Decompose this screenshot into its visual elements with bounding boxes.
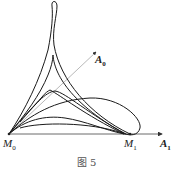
label-m0: M0	[3, 138, 16, 152]
figure-caption: 图 5	[0, 154, 173, 169]
label-m1: M1	[124, 138, 137, 152]
curve-low-arc	[9, 117, 124, 134]
label-a1: A1	[160, 138, 171, 152]
diagram-canvas	[0, 0, 173, 170]
label-a0: A0	[95, 54, 106, 68]
curve-family	[9, 2, 140, 135]
point-m1	[129, 133, 132, 136]
point-m0	[8, 133, 11, 136]
